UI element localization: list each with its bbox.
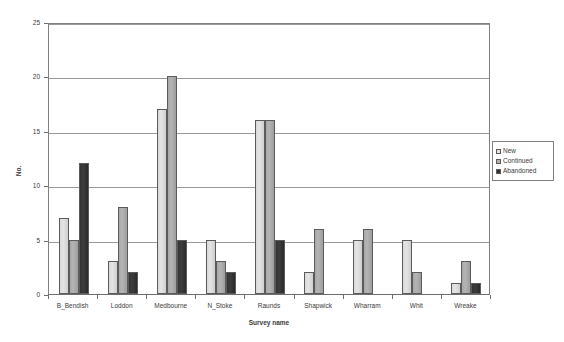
bar bbox=[275, 240, 285, 294]
bar bbox=[69, 240, 79, 294]
bar bbox=[255, 120, 265, 294]
x-category-label: Loddon bbox=[111, 302, 133, 309]
x-category-label: Whit bbox=[410, 302, 423, 309]
x-tick-mark bbox=[97, 295, 98, 299]
y-tick-label: 20 bbox=[14, 74, 40, 81]
x-category-label: B_Bendish bbox=[57, 302, 88, 309]
plot-area bbox=[48, 23, 490, 295]
legend-item[interactable]: Continued bbox=[496, 156, 550, 166]
y-tick-label: 15 bbox=[14, 129, 40, 136]
x-category-label: N_Stoke bbox=[207, 302, 232, 309]
bar bbox=[157, 109, 167, 294]
y-tick-label: 10 bbox=[14, 183, 40, 190]
legend-item[interactable]: New bbox=[496, 146, 550, 156]
y-tick-label: 5 bbox=[14, 237, 40, 244]
bar bbox=[471, 283, 481, 294]
x-tick-mark bbox=[441, 295, 442, 299]
chart-legend: NewContinuedAbandoned bbox=[492, 141, 554, 181]
x-category-label: Medbourne bbox=[154, 302, 187, 309]
legend-swatch-icon bbox=[496, 169, 501, 174]
bar bbox=[265, 120, 275, 294]
bar bbox=[79, 163, 89, 294]
gridline bbox=[49, 78, 489, 79]
x-category-label: Shapwick bbox=[304, 302, 332, 309]
legend-label: Continued bbox=[503, 158, 533, 165]
bar bbox=[128, 272, 138, 294]
legend-item[interactable]: Abandoned bbox=[496, 166, 550, 176]
bar bbox=[353, 240, 363, 294]
bar bbox=[412, 272, 422, 294]
bar bbox=[402, 240, 412, 294]
legend-label: New bbox=[503, 148, 516, 155]
x-tick-mark bbox=[490, 295, 491, 299]
legend-label: Abandoned bbox=[503, 168, 536, 175]
x-category-label: Wreake bbox=[454, 302, 476, 309]
bar bbox=[461, 261, 471, 294]
x-tick-mark bbox=[48, 295, 49, 299]
bar bbox=[314, 229, 324, 294]
bar bbox=[216, 261, 226, 294]
bar bbox=[108, 261, 118, 294]
gridline bbox=[49, 24, 489, 25]
legend-swatch-icon bbox=[496, 159, 501, 164]
bar bbox=[167, 76, 177, 294]
x-category-label: Raunds bbox=[258, 302, 280, 309]
bar bbox=[206, 240, 216, 294]
y-tick-label: 0 bbox=[14, 292, 40, 299]
bar bbox=[363, 229, 373, 294]
bar bbox=[59, 218, 69, 294]
x-tick-mark bbox=[294, 295, 295, 299]
x-category-label: Wharram bbox=[354, 302, 381, 309]
bar bbox=[226, 272, 236, 294]
chart-figure: No. 0510152025 B_BendishLoddonMedbourneN… bbox=[0, 0, 564, 342]
bar bbox=[304, 272, 314, 294]
legend-swatch-icon bbox=[496, 149, 501, 154]
y-tick-label: 25 bbox=[14, 20, 40, 27]
x-tick-mark bbox=[244, 295, 245, 299]
x-tick-mark bbox=[392, 295, 393, 299]
bar bbox=[118, 207, 128, 294]
x-axis-title: Survey name bbox=[249, 319, 289, 326]
y-axis-title: No. bbox=[15, 166, 22, 176]
x-tick-mark bbox=[195, 295, 196, 299]
bar bbox=[177, 240, 187, 294]
x-tick-mark bbox=[343, 295, 344, 299]
bar bbox=[451, 283, 461, 294]
x-tick-mark bbox=[146, 295, 147, 299]
